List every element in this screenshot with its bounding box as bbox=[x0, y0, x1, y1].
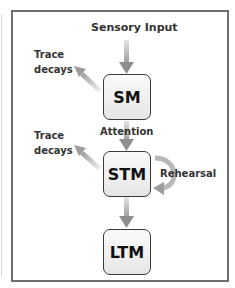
input-arrow-icon bbox=[119, 40, 134, 74]
short-term-memory-box: STM bbox=[103, 151, 151, 197]
decay-arrow-icon bbox=[74, 66, 100, 91]
trace-decays-label: decays bbox=[34, 64, 73, 76]
decay-arrow-icon bbox=[74, 145, 100, 169]
sensory-input-label: Sensory Input bbox=[91, 22, 178, 34]
consolidation-arrow-icon bbox=[119, 197, 134, 228]
trace-decays-label: decays bbox=[34, 145, 73, 157]
trace-decays-label: Trace bbox=[34, 130, 64, 142]
long-term-memory-box: LTM bbox=[103, 229, 151, 275]
rehearsal-label: Rehearsal bbox=[160, 168, 216, 180]
sensory-memory-box: SM bbox=[103, 74, 151, 120]
trace-decays-label: Trace bbox=[34, 49, 64, 61]
attention-label: Attention bbox=[100, 126, 153, 138]
